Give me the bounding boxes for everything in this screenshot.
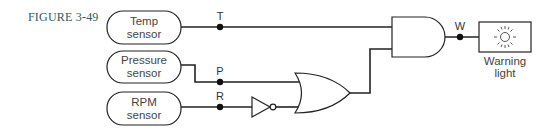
wire-or-out	[350, 49, 392, 93]
junction-dot-w	[457, 34, 463, 40]
logic-circuit-diagram: Temp sensor Pressure sensor RPM sensor T…	[0, 0, 557, 130]
junction-dot-p	[217, 79, 223, 85]
rpm-sensor-line1: RPM	[131, 96, 157, 108]
junction-dot-t	[217, 24, 223, 30]
temp-sensor-line1: Temp	[130, 15, 158, 27]
wire-p	[181, 65, 300, 82]
pressure-sensor-line1: Pressure	[121, 54, 167, 66]
signal-label-r: R	[216, 90, 224, 102]
or-gate	[295, 73, 350, 113]
signal-label-t: T	[217, 10, 224, 22]
rpm-sensor-line2: sensor	[127, 109, 162, 121]
warning-light: Warning light	[479, 22, 531, 79]
temp-sensor: Temp sensor	[107, 11, 181, 44]
warning-light-line1: Warning	[484, 55, 526, 67]
warning-light-line2: light	[494, 67, 516, 79]
pressure-sensor-line2: sensor	[127, 67, 162, 79]
temp-sensor-line2: sensor	[127, 28, 162, 40]
signal-label-w: W	[455, 20, 466, 32]
rpm-sensor: RPM sensor	[107, 92, 181, 125]
pressure-sensor: Pressure sensor	[107, 51, 181, 83]
and-gate	[392, 17, 445, 57]
signal-label-p: P	[216, 65, 223, 77]
inverter-gate	[252, 97, 276, 117]
junction-dot-r	[217, 104, 223, 110]
